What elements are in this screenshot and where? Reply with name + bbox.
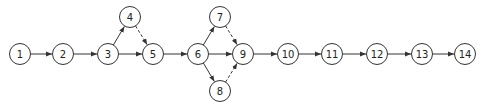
- node-label: 8: [217, 86, 223, 97]
- node-9: 9: [233, 44, 254, 65]
- node-label: 13: [416, 49, 429, 60]
- node-label: 11: [326, 49, 339, 60]
- node-label: 10: [282, 49, 295, 60]
- edge-4-to-5-dashed: [136, 26, 148, 45]
- node-14: 14: [455, 44, 476, 65]
- node-7: 7: [210, 7, 231, 28]
- node-10: 10: [278, 44, 299, 65]
- node-label: 12: [371, 49, 384, 60]
- node-1: 1: [10, 44, 31, 65]
- node-2: 2: [53, 44, 74, 65]
- node-label: 1: [17, 49, 23, 60]
- node-6: 6: [188, 44, 209, 65]
- node-13: 13: [412, 44, 433, 65]
- node-8: 8: [210, 81, 231, 102]
- edge-7-to-9-dashed: [226, 26, 238, 45]
- edge-6-to-7: [203, 26, 214, 45]
- node-label: 4: [127, 12, 133, 23]
- node-label: 6: [195, 49, 201, 60]
- network-diagram: 1234567891011121314: [0, 0, 483, 105]
- edge-3-to-4: [113, 26, 124, 45]
- node-label: 14: [459, 49, 472, 60]
- node-label: 2: [60, 49, 66, 60]
- node-5: 5: [143, 44, 164, 65]
- node-12: 12: [367, 44, 388, 65]
- node-label: 9: [240, 49, 246, 60]
- node-label: 3: [105, 49, 111, 60]
- edge-8-to-9-dashed: [226, 63, 238, 82]
- network-diagram-canvas: 1234567891011121314: [0, 0, 483, 105]
- node-4: 4: [120, 7, 141, 28]
- node-3: 3: [98, 44, 119, 65]
- node-label: 7: [217, 12, 223, 23]
- node-11: 11: [322, 44, 343, 65]
- edge-6-to-8: [203, 63, 214, 82]
- node-label: 5: [150, 49, 156, 60]
